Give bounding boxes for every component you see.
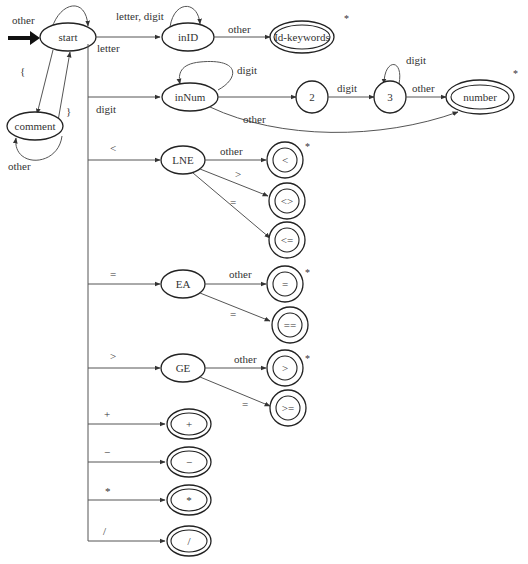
edge-label: * xyxy=(105,485,111,497)
node-label: Id-keywords xyxy=(274,31,330,43)
node-plus: + xyxy=(167,409,211,439)
node-2: 2 xyxy=(296,81,328,113)
node-label: 2 xyxy=(309,91,315,103)
node-le: <= xyxy=(269,222,305,258)
edge-label: letter xyxy=(97,42,120,54)
node-label: == xyxy=(284,319,296,331)
edge-label: / xyxy=(103,525,107,537)
edge-label: other xyxy=(412,82,435,94)
start-arrow: other xyxy=(8,14,40,45)
edge-label: other xyxy=(220,145,243,157)
node-ne: <> xyxy=(269,183,305,219)
retract-marker: * xyxy=(305,267,310,278)
node-label: EA xyxy=(176,278,191,290)
node-GE: GE xyxy=(161,354,205,382)
edge-label: + xyxy=(104,408,110,420)
node-label: comment xyxy=(15,120,56,132)
node-comment: comment xyxy=(7,112,63,160)
node-label: start xyxy=(59,31,78,43)
node-gt: > xyxy=(267,350,303,386)
node-label: LNE xyxy=(172,154,194,166)
node-label: = xyxy=(282,278,288,290)
node-LNE: LNE xyxy=(161,146,205,174)
edge-label: other xyxy=(229,268,252,280)
node-times: * xyxy=(167,485,211,515)
node-label: + xyxy=(186,418,192,430)
edge-GE-ge xyxy=(200,377,270,406)
edge-label: letter, digit xyxy=(116,10,164,22)
node-inNum: inNum xyxy=(162,61,233,111)
node-label: * xyxy=(186,494,192,506)
edge-label: digit xyxy=(406,54,426,66)
node-minus: − xyxy=(167,447,211,477)
node-div: / xyxy=(167,526,211,556)
node-label: > xyxy=(282,362,288,374)
edge-label: other xyxy=(234,353,257,365)
edge-label: = xyxy=(230,196,236,208)
retract-marker: * xyxy=(344,13,349,24)
node-id-keywords: Id-keywords xyxy=(270,21,334,53)
node-label: >= xyxy=(282,402,294,414)
edge-label: > xyxy=(235,168,241,180)
edge-label: { xyxy=(20,65,25,77)
node-label: 3 xyxy=(387,91,393,103)
node-lt: < xyxy=(267,142,303,178)
edge-label: other xyxy=(228,23,251,35)
node-ge: >= xyxy=(270,390,306,426)
state-diagram: other start { } comment other letter inI… xyxy=(0,0,528,564)
retract-marker: * xyxy=(305,141,310,152)
node-label: inID xyxy=(178,31,198,43)
edge-label: other xyxy=(243,113,266,125)
node-assign: = xyxy=(267,266,303,302)
node-label: < xyxy=(282,154,288,166)
edge-label: digit xyxy=(337,82,357,94)
retract-marker: * xyxy=(305,353,310,364)
node-inID: inID xyxy=(162,6,214,51)
node-3: 3 xyxy=(374,65,406,114)
retract-marker: * xyxy=(513,68,518,79)
edge-label: = xyxy=(242,398,248,410)
edge-LNE-ne xyxy=(200,169,268,196)
edge-label: < xyxy=(110,142,116,154)
node-label: number xyxy=(463,91,497,103)
edge-label: > xyxy=(110,350,116,362)
edge-label: digit xyxy=(237,64,257,76)
node-label: GE xyxy=(176,362,191,374)
node-number: number xyxy=(446,80,514,114)
edge-label: } xyxy=(66,105,71,117)
edge-label: digit xyxy=(96,103,116,115)
node-eq: == xyxy=(272,307,308,343)
edge-label: = xyxy=(110,268,116,280)
start-arrow-label: other xyxy=(12,14,35,26)
node-label: <> xyxy=(281,195,293,207)
edge-label: = xyxy=(230,308,236,320)
node-label: inNum xyxy=(175,91,206,103)
node-label: − xyxy=(186,456,192,468)
node-EA: EA xyxy=(161,270,205,298)
edge-start-comment xyxy=(37,50,53,114)
edge-label: − xyxy=(104,446,110,458)
node-label: <= xyxy=(281,234,293,246)
edge-label: other xyxy=(8,160,31,172)
